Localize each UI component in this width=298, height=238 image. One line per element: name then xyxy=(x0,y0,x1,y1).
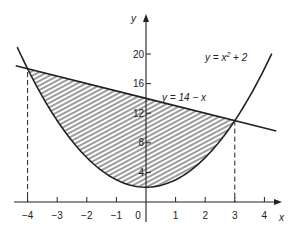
x-tick-label: 2 xyxy=(202,210,208,221)
x-tick-label: 1 xyxy=(173,210,179,221)
x-tick-label: 3 xyxy=(232,210,238,221)
y-tick-label: 12 xyxy=(133,108,145,119)
x-tick-label: 0 xyxy=(135,210,141,221)
y-tick-label: 20 xyxy=(133,49,145,60)
x-tick-label: 4 xyxy=(262,210,268,221)
shaded-region xyxy=(28,69,235,187)
x-tick-label: −1 xyxy=(111,210,123,221)
parabola-equation-label: y = x2 + 2 xyxy=(204,51,248,63)
x-axis-label: x xyxy=(278,212,285,223)
x-tick-label: −2 xyxy=(81,210,93,221)
y-axis-arrow-icon xyxy=(143,14,149,22)
chart: −4−3−2−101234 48121620 x y y = x2 + 2 y … xyxy=(0,0,298,238)
x-tick-label: −4 xyxy=(22,210,34,221)
x-ticks: −4−3−2−101234 xyxy=(22,197,268,221)
line-equation-label: y = 14 − x xyxy=(161,92,207,103)
y-axis-label: y xyxy=(130,13,137,24)
y-tick-label: 8 xyxy=(138,137,144,148)
y-tick-label: 4 xyxy=(138,167,144,178)
x-tick-label: −3 xyxy=(51,210,63,221)
x-axis-arrow-icon xyxy=(274,199,282,205)
y-tick-label: 16 xyxy=(133,78,145,89)
